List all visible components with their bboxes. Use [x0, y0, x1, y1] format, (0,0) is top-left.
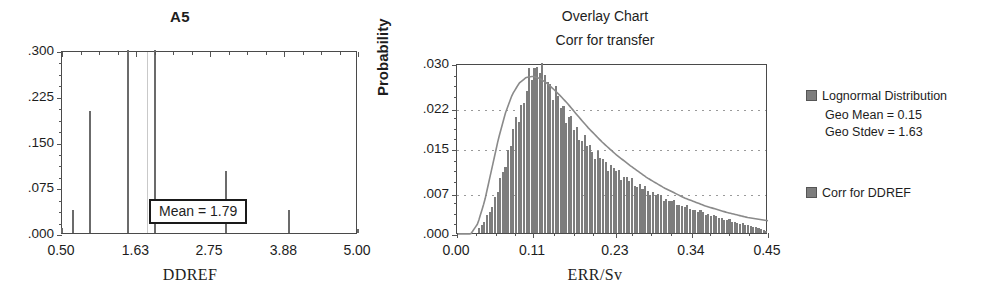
left-x-axis-title: DDREF: [130, 266, 250, 284]
y-tick-label: .150: [0, 135, 54, 150]
axis-tick-minor: [554, 233, 555, 236]
axis-tick: [62, 52, 63, 57]
axis-tick-minor: [729, 233, 730, 236]
y-tick-label: .022: [380, 101, 449, 116]
legend-swatch-icon-2: [806, 187, 817, 198]
axis-tick: [136, 52, 137, 57]
axis-tick-minor: [671, 233, 672, 236]
spike-bar: [288, 210, 290, 233]
axis-tick-minor: [81, 52, 82, 55]
legend-geo-stdev: Geo Stdev = 1.63: [825, 124, 986, 141]
x-tick-label: 1.63: [105, 242, 165, 258]
axis-tick-minor: [59, 224, 62, 225]
x-tick-label: 0.00: [426, 242, 486, 258]
axis-tick-minor: [454, 97, 457, 98]
axis-tick-minor: [173, 52, 174, 55]
axis-tick-minor: [340, 52, 341, 55]
axis-tick-minor: [454, 182, 457, 183]
axis-tick-minor: [59, 121, 62, 122]
legend-swatch-icon: [806, 90, 817, 101]
y-tick-label: .300: [0, 43, 54, 58]
axis-tick-minor: [454, 86, 457, 87]
y-tick-label: .015: [380, 141, 449, 156]
x-tick-label: 0.50: [31, 242, 91, 258]
chart-legend: Lognormal Distribution Geo Mean = 0.15 G…: [806, 88, 986, 141]
axis-tick-minor: [192, 52, 193, 55]
legend-geo-mean: Geo Mean = 0.15: [825, 107, 986, 124]
axis-tick: [616, 233, 617, 238]
x-tick-label: 0.11: [502, 242, 562, 258]
axis-tick: [452, 150, 457, 151]
mean-annotation-box: Mean = 1.79: [149, 199, 247, 224]
axis-tick-minor: [59, 132, 62, 133]
axis-tick-minor: [59, 75, 62, 76]
overlay-chart-subtitle: Corr for transfer: [440, 32, 770, 48]
y-tick-label: .030: [380, 56, 449, 71]
axis-tick-minor: [454, 76, 457, 77]
axis-tick-minor: [59, 63, 62, 64]
y-tick-label: .000: [380, 226, 449, 241]
legend-label-corr-ddref: Corr for DDREF: [822, 186, 911, 200]
axis-tick-minor: [632, 233, 633, 236]
legend-label-lognormal: Lognormal Distribution: [822, 89, 947, 103]
axis-tick-minor: [574, 233, 575, 236]
axis-tick: [452, 65, 457, 66]
axis-tick: [57, 98, 62, 99]
x-tick-label: 3.88: [253, 242, 313, 258]
axis-tick: [57, 235, 62, 236]
right-x-axis-title: ERR/Sv: [515, 266, 675, 284]
lognormal-curve: [457, 65, 768, 235]
axis-tick: [768, 233, 769, 238]
axis-tick-minor: [321, 52, 322, 55]
axis-tick: [210, 52, 211, 57]
axis-tick-minor: [59, 166, 62, 167]
axis-tick-minor: [454, 129, 457, 130]
axis-tick: [533, 233, 534, 238]
spike-bar: [61, 228, 63, 233]
axis-tick: [457, 233, 458, 238]
axis-tick-minor: [710, 233, 711, 236]
ddref-spike-chart: A5 .000.075.150.225.300 0.501.632.753.88…: [0, 0, 380, 302]
axis-tick-minor: [454, 214, 457, 215]
axis-tick-minor: [454, 224, 457, 225]
spike-bar: [357, 229, 359, 233]
axis-tick: [57, 189, 62, 190]
axis-tick-minor: [454, 171, 457, 172]
overlay-chart: Overlay Chart Corr for transfer Probabil…: [380, 0, 810, 302]
y-tick-label: .007: [380, 186, 449, 201]
axis-tick: [452, 110, 457, 111]
axis-tick-minor: [59, 212, 62, 213]
axis-tick-minor: [118, 52, 119, 55]
axis-tick: [452, 195, 457, 196]
x-tick-label: 0.34: [661, 242, 721, 258]
axis-tick-minor: [266, 52, 267, 55]
axis-tick-minor: [651, 233, 652, 236]
axis-tick-minor: [496, 233, 497, 236]
spike-bar: [89, 111, 91, 233]
axis-tick-minor: [476, 233, 477, 236]
axis-tick-minor: [59, 201, 62, 202]
axis-tick-minor: [99, 52, 100, 55]
y-tick-label: .225: [0, 89, 54, 104]
axis-tick-minor: [454, 161, 457, 162]
spike-bar: [127, 50, 129, 233]
axis-tick-minor: [303, 52, 304, 55]
y-tick-label: .000: [0, 226, 54, 241]
axis-tick-minor: [59, 109, 62, 110]
axis-tick: [284, 52, 285, 57]
axis-tick-minor: [593, 233, 594, 236]
axis-tick-minor: [515, 233, 516, 236]
x-tick-label: 0.23: [585, 242, 645, 258]
x-tick-label: 2.75: [179, 242, 239, 258]
axis-tick-minor: [247, 52, 248, 55]
axis-tick: [692, 233, 693, 238]
axis-tick-minor: [59, 178, 62, 179]
spike-bar: [72, 210, 74, 233]
y-tick-label: .075: [0, 180, 54, 195]
axis-tick-minor: [749, 233, 750, 236]
axis-tick-minor: [454, 203, 457, 204]
overlay-chart-title: Overlay Chart: [440, 8, 770, 24]
axis-tick: [358, 52, 359, 57]
x-tick-label: 0.45: [737, 242, 797, 258]
x-tick-label: 5.00: [327, 242, 387, 258]
